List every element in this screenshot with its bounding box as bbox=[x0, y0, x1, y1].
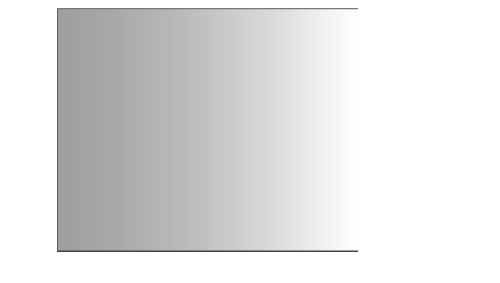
y-axis-tick-labels bbox=[12, 0, 54, 283]
plot-svg bbox=[57, 8, 358, 252]
plot-background bbox=[57, 8, 358, 252]
line-chart bbox=[0, 0, 500, 283]
plot-area bbox=[57, 8, 358, 252]
